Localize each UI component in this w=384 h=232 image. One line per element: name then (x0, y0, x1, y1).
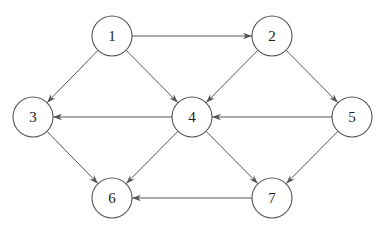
edge-1-to-4 (126, 50, 178, 103)
directed-graph: 1234567 (0, 0, 384, 232)
edge-4-to-6 (126, 131, 178, 184)
node-label: 4 (188, 109, 196, 125)
node-label: 6 (108, 190, 116, 206)
node-7: 7 (252, 178, 292, 218)
node-label: 5 (348, 109, 356, 125)
node-1: 1 (92, 16, 132, 56)
edge-4-to-7 (206, 131, 258, 184)
node-label: 2 (268, 28, 276, 44)
node-label: 7 (268, 190, 276, 206)
node-5: 5 (332, 97, 372, 137)
edge-2-to-5 (286, 50, 338, 103)
node-3: 3 (13, 97, 53, 137)
edge-2-to-4 (206, 50, 258, 103)
node-label: 3 (29, 109, 37, 125)
edge-3-to-6 (47, 131, 98, 183)
node-6: 6 (92, 178, 132, 218)
node-4: 4 (172, 97, 212, 137)
edge-1-to-3 (47, 50, 98, 102)
node-2: 2 (252, 16, 292, 56)
edge-5-to-7 (286, 131, 338, 184)
node-label: 1 (108, 28, 116, 44)
